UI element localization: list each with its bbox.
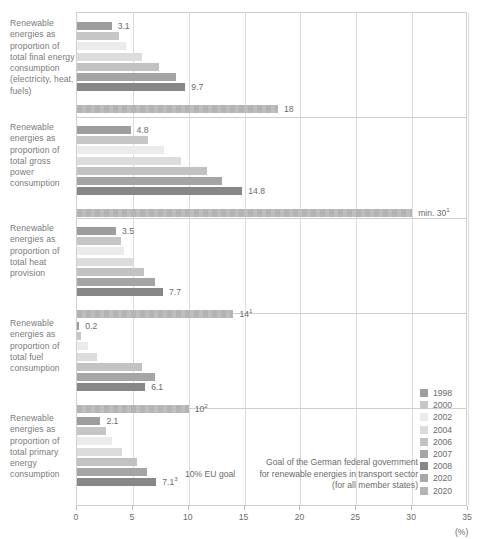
legend-item-2008-6: 2008 bbox=[420, 460, 452, 472]
legend-label: 2000 bbox=[433, 401, 452, 409]
legend: 199820002002200420062007200820202020 bbox=[420, 387, 452, 497]
bar-4-1998 bbox=[77, 322, 79, 330]
bar-3-1998 bbox=[77, 227, 116, 235]
bar-3-2004 bbox=[77, 258, 134, 266]
bar-4-2006 bbox=[77, 363, 142, 371]
bar-value-3-2020: 141 bbox=[239, 310, 252, 318]
bar-value-3-1998: 3.5 bbox=[122, 227, 134, 235]
axis-tick-mark-5 bbox=[132, 506, 133, 510]
bar-4-2007 bbox=[77, 373, 155, 381]
legend-item-2020-7: 2020 bbox=[420, 472, 452, 484]
legend-item-2007-5: 2007 bbox=[420, 448, 452, 460]
bar-value-1-1998: 3.1 bbox=[118, 22, 130, 30]
bar-2-2002 bbox=[77, 146, 164, 154]
goal-annotation: Goal of the German federal government 10… bbox=[190, 457, 418, 492]
legend-label: 1998 bbox=[433, 389, 452, 397]
category-label-5: Renewable energies as proportion of tota… bbox=[10, 413, 76, 481]
bar-2-2004 bbox=[77, 157, 181, 165]
axis-tick-mark-20 bbox=[299, 506, 300, 510]
legend-swatch-icon bbox=[420, 462, 428, 470]
axis-tick-label-20: 20 bbox=[284, 512, 314, 522]
axis-tick-label-15: 15 bbox=[229, 512, 259, 522]
axis-tick-mark-30 bbox=[411, 506, 412, 510]
bar-1-2004 bbox=[77, 53, 142, 61]
bar-value-3-2008: 7.7 bbox=[169, 288, 181, 296]
bar-3-2007 bbox=[77, 278, 155, 286]
legend-item-2004-3: 2004 bbox=[420, 424, 452, 436]
legend-item-2002-2: 2002 bbox=[420, 411, 452, 423]
group-separator-2 bbox=[77, 218, 466, 219]
legend-swatch-icon bbox=[420, 438, 428, 446]
goal-note-line3: (for all member states) bbox=[190, 480, 418, 492]
renewable-energies-bar-chart: 3.19.7184.814.8min. 3013.57.71410.26.110… bbox=[0, 0, 477, 539]
legend-swatch-icon bbox=[420, 487, 428, 495]
group-separator-1 bbox=[77, 117, 466, 118]
axis-tick-label-35: 35 bbox=[452, 512, 477, 522]
bar-4-2002 bbox=[77, 342, 88, 350]
bar-value-1-2020: 18 bbox=[284, 105, 294, 113]
plot-area: 3.19.7184.814.8min. 3013.57.71410.26.110… bbox=[76, 12, 467, 506]
bar-3-2020 bbox=[77, 310, 233, 318]
legend-item-1998-0: 1998 bbox=[420, 387, 452, 399]
axis-tick-label-5: 5 bbox=[117, 512, 147, 522]
bar-4-2020 bbox=[77, 405, 189, 413]
bar-5-2007 bbox=[77, 468, 147, 476]
bar-value-5-2008: 7.13 bbox=[162, 478, 177, 486]
bar-4-2004 bbox=[77, 353, 97, 361]
legend-label: 2006 bbox=[433, 438, 452, 446]
gridline-10 bbox=[189, 13, 190, 505]
legend-item-2006-4: 2006 bbox=[420, 436, 452, 448]
bar-5-2000 bbox=[77, 427, 106, 435]
bar-value-1-2008: 9.7 bbox=[191, 83, 203, 91]
axis-tick-mark-25 bbox=[355, 506, 356, 510]
axis-unit-label: (%) bbox=[455, 527, 468, 537]
legend-label: 2020 bbox=[433, 487, 452, 495]
legend-item-2000-1: 2000 bbox=[420, 399, 452, 411]
bar-value-4-1998: 0.2 bbox=[85, 322, 97, 330]
goal-note-line2-left: 10% EU goal bbox=[185, 469, 235, 481]
bar-1-2020 bbox=[77, 105, 278, 113]
category-label-2: Renewable energies as proportion of tota… bbox=[10, 122, 76, 190]
bar-1-2007 bbox=[77, 73, 176, 81]
legend-label: 2004 bbox=[433, 426, 452, 434]
legend-swatch-icon bbox=[420, 474, 428, 482]
bar-value-4-2020: 102 bbox=[195, 405, 208, 413]
gridline-35 bbox=[468, 13, 469, 505]
bar-1-2008 bbox=[77, 83, 185, 91]
gridline-25 bbox=[356, 13, 357, 505]
bar-4-2008 bbox=[77, 383, 145, 391]
bar-5-1998 bbox=[77, 417, 100, 425]
bar-2-2007 bbox=[77, 177, 222, 185]
bar-1-2000 bbox=[77, 32, 119, 40]
bar-5-2006 bbox=[77, 458, 137, 466]
legend-swatch-icon bbox=[420, 401, 428, 409]
bar-value-2-1998: 4.8 bbox=[137, 126, 149, 134]
legend-label: 2020 bbox=[433, 474, 452, 482]
legend-swatch-icon bbox=[420, 426, 428, 434]
bar-3-2000 bbox=[77, 237, 121, 245]
axis-tick-label-10: 10 bbox=[173, 512, 203, 522]
axis-tick-mark-10 bbox=[188, 506, 189, 510]
bar-2-2020 bbox=[77, 209, 412, 217]
legend-label: 2002 bbox=[433, 413, 452, 421]
legend-swatch-icon bbox=[420, 413, 428, 421]
gridline-15 bbox=[245, 13, 246, 505]
axis-tick-mark-35 bbox=[467, 506, 468, 510]
bar-3-2008 bbox=[77, 288, 163, 296]
bar-3-2002 bbox=[77, 247, 124, 255]
bar-5-2008 bbox=[77, 478, 156, 486]
bar-value-4-2008: 6.1 bbox=[151, 383, 163, 391]
bar-5-2002 bbox=[77, 437, 112, 445]
bar-2-2008 bbox=[77, 187, 242, 195]
category-label-4: Renewable energies as proportion of tota… bbox=[10, 318, 76, 374]
legend-label: 2008 bbox=[433, 462, 452, 470]
gridline-30 bbox=[412, 13, 413, 505]
bar-2-2006 bbox=[77, 167, 207, 175]
bar-value-2-2020: min. 301 bbox=[418, 209, 450, 217]
axis-tick-label-25: 25 bbox=[340, 512, 370, 522]
bar-1-2002 bbox=[77, 42, 126, 50]
bar-5-2004 bbox=[77, 448, 122, 456]
bar-1-2006 bbox=[77, 63, 159, 71]
bar-1-1998 bbox=[77, 22, 112, 30]
category-label-1: Renewable energies as proportion of tota… bbox=[10, 18, 76, 97]
